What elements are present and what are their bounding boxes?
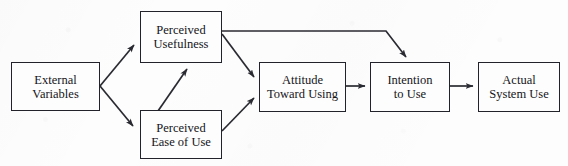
edge-ease-to-attitude xyxy=(222,98,254,131)
node-perceived-usefulness: Perceived Usefulness xyxy=(140,11,222,63)
edge-external-to-usefulness xyxy=(100,45,134,86)
node-external-variables-line1: External xyxy=(34,73,76,87)
node-perceived-ease-of-use: Perceived Ease of Use xyxy=(140,110,222,159)
edge-usefulness-to-intention xyxy=(222,31,406,57)
node-intention-to-use: Intention to Use xyxy=(370,62,450,112)
node-perceived-usefulness-line2: Usefulness xyxy=(154,37,209,51)
node-external-variables: External Variables xyxy=(11,62,100,111)
node-perceived-usefulness-line1: Perceived xyxy=(156,23,205,37)
edge-external-to-ease xyxy=(100,86,133,126)
node-attitude-toward-using-line2: Toward Using xyxy=(267,87,338,101)
node-actual-system-use-line1: Actual xyxy=(502,73,535,87)
node-attitude-toward-using: Attitude Toward Using xyxy=(259,62,346,112)
node-actual-system-use-line2: System Use xyxy=(489,87,548,101)
node-perceived-ease-of-use-line2: Ease of Use xyxy=(151,135,211,149)
node-actual-system-use: Actual System Use xyxy=(478,62,560,112)
node-intention-to-use-line2: to Use xyxy=(394,87,426,101)
edge-usefulness-to-attitude xyxy=(222,34,254,77)
tam-diagram: External Variables Perceived Usefulness … xyxy=(0,0,568,166)
node-perceived-ease-of-use-line1: Perceived xyxy=(156,121,205,135)
node-attitude-toward-using-line1: Attitude xyxy=(282,73,323,87)
edge-ease-to-usefulness xyxy=(158,69,187,111)
node-external-variables-line2: Variables xyxy=(32,87,79,101)
node-intention-to-use-line1: Intention xyxy=(387,73,432,87)
